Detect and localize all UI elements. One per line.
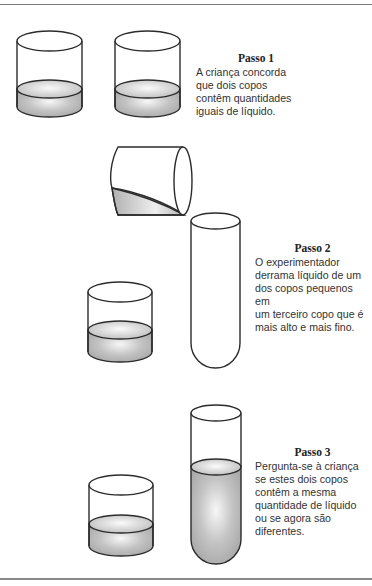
bottom-rule bbox=[0, 578, 372, 580]
step3-small-glass bbox=[89, 475, 153, 556]
step3-caption: Passo 3 Pergunta-se à criança se estes d… bbox=[255, 446, 370, 538]
step2-small-glass bbox=[88, 282, 152, 362]
step3-description: Pergunta-se à criança se estes dois copo… bbox=[255, 460, 370, 538]
step2-title: Passo 2 bbox=[255, 242, 370, 255]
step2-tall-tube bbox=[191, 213, 240, 368]
step1-glass-right bbox=[115, 31, 180, 117]
step2-description: O experimentador derrama líquido de um d… bbox=[255, 256, 370, 334]
step3-tall-tube bbox=[191, 405, 241, 564]
step2-caption: Passo 2 O experimentador derrama líquido… bbox=[255, 242, 370, 334]
step2-pouring-glass bbox=[111, 147, 192, 215]
step1-caption: Passo 1 A criança concorda que dois copo… bbox=[196, 52, 316, 118]
step1-title: Passo 1 bbox=[196, 52, 316, 65]
step3-title: Passo 3 bbox=[255, 446, 370, 459]
step1-glass-left bbox=[17, 31, 82, 117]
step1-description: A criança concorda que dois copos contêm… bbox=[196, 66, 316, 118]
